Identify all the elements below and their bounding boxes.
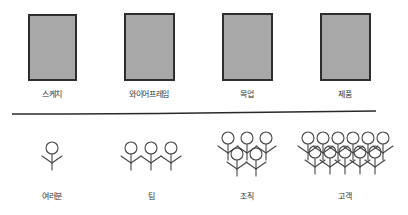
- fidelity-audience-diagram: 스케치 와이어프레임 목업 제품: [0, 0, 408, 215]
- organization-label: 조직: [202, 190, 292, 201]
- divider-line: [12, 111, 376, 114]
- people-team-icon: [121, 142, 181, 170]
- customers-label: 고객: [300, 190, 390, 201]
- you-label: 여러분: [7, 190, 97, 201]
- person-you-icon: [42, 142, 62, 170]
- team-label: 팀: [106, 190, 196, 201]
- people-and-divider: [0, 0, 408, 215]
- people-organization-icon: [218, 132, 276, 176]
- people-customers-icon: [298, 132, 393, 174]
